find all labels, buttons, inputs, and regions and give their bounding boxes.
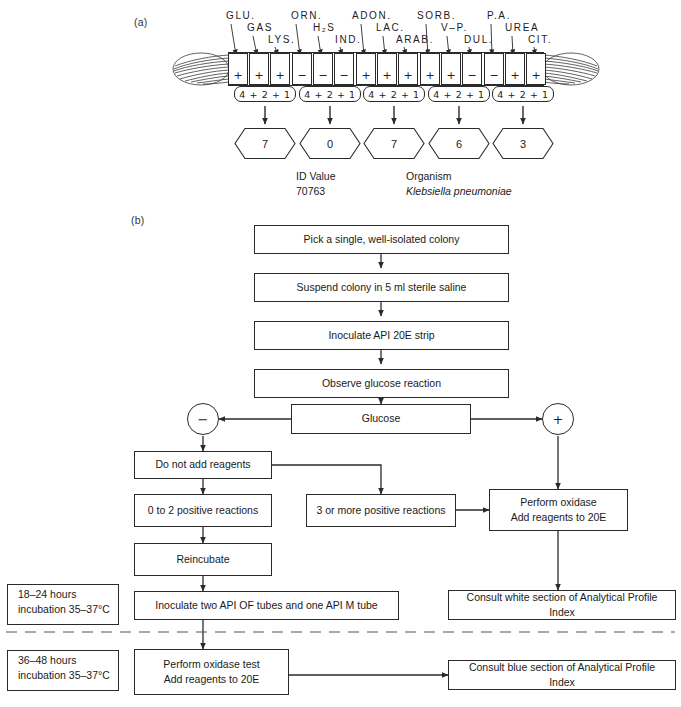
step-zero-to-two-reactions[interactable]: 0 to 2 positive reactions — [134, 494, 272, 527]
test-label-gas: GAS — [247, 22, 273, 33]
strip-cell-urea[interactable]: + — [505, 53, 525, 85]
strip-result-sorb: + — [425, 70, 434, 81]
strip-result-gas: + — [254, 70, 263, 81]
profile-digit-5: 3 — [492, 127, 554, 160]
profile-digit-2: 0 — [299, 127, 361, 160]
profile-digit-2-value: 0 — [299, 127, 361, 160]
step-perform-oxidase-test[interactable]: Perform oxidase test Add reagents to 20E — [134, 649, 289, 695]
id-value-label: ID Value — [296, 170, 336, 182]
step-do-not-add-reagents[interactable]: Do not add reagents — [134, 451, 272, 479]
step-observe-glucose[interactable]: Observe glucose reaction — [254, 369, 509, 398]
test-label-h2s: H₂S — [313, 22, 336, 33]
incubation-second-line1: 36–48 hours — [18, 653, 112, 668]
test-label-cit: CIT. — [528, 34, 552, 45]
strip-result-lys: + — [275, 70, 284, 81]
strip-result-arab: + — [403, 70, 412, 81]
strip-result-pa: − — [489, 70, 498, 81]
step-reincubate[interactable]: Reincubate — [134, 543, 272, 576]
incubation-second-line2: incubation 35–37°C — [18, 668, 112, 683]
strip-result-vp: + — [446, 70, 455, 81]
figure-root: (a) + + + − − − + + + + + − − + + GLU. G… — [0, 0, 681, 707]
step-oxidase-test-line2: Add reagents to 20E — [141, 672, 282, 687]
result-consult-blue[interactable]: Consult blue section of Analytical Profi… — [448, 660, 676, 690]
step-oxidase-test-line1: Perform oxidase test — [141, 657, 282, 672]
step-inoculate-tubes[interactable]: Inoculate two API OF tubes and one API M… — [134, 591, 399, 620]
test-label-urea: UREA — [505, 22, 539, 33]
profile-digit-1-value: 7 — [234, 127, 296, 160]
strip-cell-h2s[interactable]: − — [313, 53, 333, 85]
strip-cell-dul[interactable]: − — [462, 53, 482, 85]
strip-cell-arab[interactable]: + — [398, 53, 418, 85]
incubation-first-line2: incubation 35–37°C — [18, 602, 112, 617]
incubation-second-period: 36–48 hours incubation 35–37°C — [7, 650, 119, 691]
test-label-pa: P.A. — [487, 10, 511, 21]
group-weights-4: 4 + 2 + 1 — [428, 86, 490, 102]
strip-result-cit: + — [531, 70, 540, 81]
profile-digit-5-value: 3 — [492, 127, 554, 160]
id-value: 70763 — [296, 185, 325, 197]
profile-digit-4: 6 — [428, 127, 490, 160]
strip-result-h2s: − — [318, 70, 327, 81]
step-three-or-more-reactions[interactable]: 3 or more positive reactions — [306, 494, 456, 527]
strip-cell-glu[interactable]: + — [228, 53, 248, 85]
incubation-first-line1: 18–24 hours — [18, 587, 112, 602]
strip-cell-gas[interactable]: + — [249, 53, 269, 85]
strip-cell-orn[interactable]: − — [292, 53, 312, 85]
step-glucose[interactable]: Glucose — [291, 404, 471, 434]
strip-result-ind: − — [339, 70, 348, 81]
strip-cell-pa[interactable]: − — [484, 53, 504, 85]
step-pick-colony[interactable]: Pick a single, well-isolated colony — [254, 225, 509, 254]
strip-cell-cit[interactable]: + — [526, 53, 546, 85]
group-weights-3: 4 + 2 + 1 — [363, 86, 425, 102]
strip-result-dul: − — [467, 70, 476, 81]
group-weights-5: 4 + 2 + 1 — [492, 86, 554, 102]
step-perform-oxidase-line1: Perform oxidase — [496, 495, 621, 510]
incubation-first-period: 18–24 hours incubation 35–37°C — [7, 584, 119, 625]
glucose-positive-node[interactable]: + — [542, 403, 574, 435]
organism-label: Organism — [406, 170, 452, 182]
strip-result-lac: + — [382, 70, 391, 81]
strip-result-urea: + — [510, 70, 519, 81]
profile-digit-3: 7 — [363, 127, 425, 160]
step-perform-oxidase[interactable]: Perform oxidase Add reagents to 20E — [489, 489, 628, 531]
profile-digit-4-value: 6 — [428, 127, 490, 160]
strip-cell-lac[interactable]: + — [377, 53, 397, 85]
test-label-adon: ADON. — [352, 10, 392, 21]
test-label-vp: V–P. — [441, 22, 468, 33]
step-perform-oxidase-line2: Add reagents to 20E — [496, 510, 621, 525]
glucose-negative-node[interactable]: − — [187, 403, 219, 435]
test-label-lac: LAC. — [376, 22, 405, 33]
strip-result-adon: + — [361, 70, 370, 81]
strip-cell-sorb[interactable]: + — [420, 53, 440, 85]
step-suspend-colony[interactable]: Suspend colony in 5 ml sterile saline — [254, 273, 509, 302]
test-label-arab: ARAB. — [396, 34, 434, 45]
test-label-orn: ORN. — [291, 10, 322, 21]
profile-digit-3-value: 7 — [363, 127, 425, 160]
test-label-glu: GLU. — [226, 10, 256, 21]
test-label-sorb: SORB. — [417, 10, 456, 21]
test-label-lys: LYS. — [268, 34, 295, 45]
strip-cell-ind[interactable]: − — [334, 53, 354, 85]
panel-b-label: (b) — [131, 214, 144, 226]
profile-digit-1: 7 — [234, 127, 296, 160]
group-weights-2: 4 + 2 + 1 — [299, 86, 361, 102]
result-consult-white[interactable]: Consult white section of Analytical Prof… — [448, 590, 676, 620]
group-weights-1: 4 + 2 + 1 — [234, 86, 296, 102]
step-inoculate-strip[interactable]: Inoculate API 20E strip — [254, 321, 509, 350]
test-label-ind: IND. — [335, 34, 361, 45]
strip-cell-vp[interactable]: + — [441, 53, 461, 85]
test-label-dul: DUL. — [464, 34, 493, 45]
strip-result-glu: + — [233, 70, 242, 81]
strip-cell-adon[interactable]: + — [356, 53, 376, 85]
panel-a-label: (a) — [134, 16, 147, 28]
strip-result-orn: − — [297, 70, 306, 81]
organism-name: Klebsiella pneumoniae — [406, 185, 512, 197]
strip-cell-lys[interactable]: + — [270, 53, 290, 85]
